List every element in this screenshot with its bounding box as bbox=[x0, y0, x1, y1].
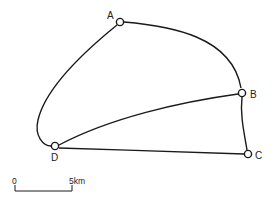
scale-bar: 0 5km bbox=[12, 176, 85, 191]
node-a bbox=[116, 18, 123, 25]
edge-a-b bbox=[124, 22, 241, 88]
node-label-b: B bbox=[250, 89, 257, 100]
node-label-c: C bbox=[255, 150, 262, 161]
node-c bbox=[244, 150, 251, 157]
scale-start-label: 0 bbox=[12, 176, 17, 186]
node-label-d: D bbox=[51, 152, 58, 163]
edge-a-d bbox=[37, 25, 117, 146]
edge-b-c bbox=[241, 97, 247, 150]
node-b bbox=[238, 89, 245, 96]
node-d bbox=[51, 142, 58, 149]
edge-d-c bbox=[59, 148, 244, 154]
route-diagram: A B C D 0 5km bbox=[0, 0, 274, 205]
edge-b-d bbox=[59, 94, 238, 145]
scale-end-label: 5km bbox=[69, 176, 85, 186]
node-label-a: A bbox=[107, 10, 114, 21]
